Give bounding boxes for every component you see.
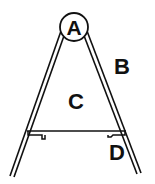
label-c: C (68, 89, 84, 114)
label-d: D (109, 140, 125, 165)
left-leg (10, 31, 65, 177)
label-b: B (114, 54, 130, 79)
crossbar (27, 131, 126, 139)
a-frame-diagram: A B C D (0, 0, 155, 184)
label-a: A (66, 16, 81, 39)
